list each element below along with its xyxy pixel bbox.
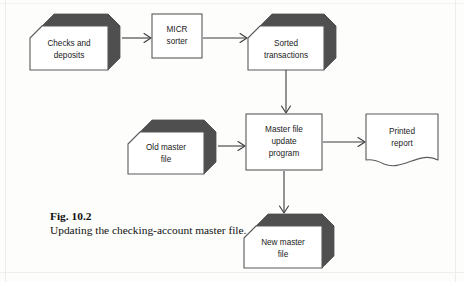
figure-number: Fig. 10.2 (50, 210, 280, 224)
new-master-file-label-line-1: New master (261, 238, 305, 247)
micr-sorter-label-line-2: sorter (167, 37, 188, 46)
edge-update-program-to-new-master-file (280, 171, 289, 213)
printed-report-label-line-1: Printed (389, 127, 415, 136)
sorted-transactions-side-face (324, 14, 336, 70)
old-master-file-label-line-1: Old master (146, 143, 186, 152)
node-sorted-transactions[interactable]: Sorted transactions (248, 14, 336, 70)
new-master-file-label-line-2: file (278, 250, 289, 259)
micr-sorter-label-line-1: MICR (167, 25, 188, 34)
checks-and-deposits-label-line-2: deposits (54, 51, 85, 60)
new-master-file-side-face (322, 214, 334, 268)
node-master-file-update-program[interactable]: Master file update program (246, 114, 322, 170)
edge-old-master-file-to-update-program (218, 142, 245, 151)
node-old-master-file[interactable]: Old master file (128, 120, 216, 174)
old-master-file-side-face (204, 120, 216, 174)
edge-sorted-transactions-to-update-program (282, 70, 291, 113)
old-master-file-front-face (128, 132, 204, 174)
figure-page: Checks and deposits MICR sorter Sorted t… (0, 0, 464, 282)
node-checks-and-deposits[interactable]: Checks and deposits (30, 14, 120, 70)
figure-caption: Fig. 10.2 Updating the checking-account … (50, 210, 280, 237)
edge-micr-to-sorted-transactions (203, 34, 247, 43)
edge-checks-to-micr (122, 34, 151, 43)
master-file-update-program-label-line-1: Master file (265, 125, 303, 134)
sorted-transactions-label-line-1: Sorted (274, 39, 299, 48)
flowchart-diagram: Checks and deposits MICR sorter Sorted t… (0, 0, 464, 282)
micr-sorter-box (152, 14, 202, 58)
edge-update-program-to-printed-report (323, 138, 365, 147)
node-micr-sorter[interactable]: MICR sorter (152, 14, 202, 58)
old-master-file-label-line-2: file (161, 155, 172, 164)
master-file-update-program-label-line-2: update (271, 137, 296, 146)
checks-and-deposits-side-face (108, 14, 120, 70)
checks-and-deposits-label-line-1: Checks and (47, 39, 91, 48)
printed-report-label-line-2: report (391, 139, 413, 148)
master-file-update-program-label-line-3: program (269, 149, 300, 158)
node-printed-report[interactable]: Printed report (366, 114, 438, 166)
figure-caption-text: Updating the checking-account master fil… (50, 224, 280, 238)
sorted-transactions-label-line-2: transactions (264, 51, 308, 60)
